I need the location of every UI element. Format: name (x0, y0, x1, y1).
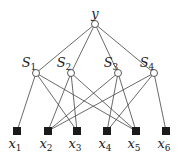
edge-S3-x2 (48, 73, 118, 131)
node-x4 (103, 127, 111, 135)
edge-S1-x3 (36, 73, 77, 131)
label-x4: x4 (98, 136, 111, 153)
label-S1: S1 (22, 55, 37, 72)
edge-S4-x6 (154, 73, 166, 131)
label-x2: x2 (39, 136, 52, 153)
node-x3 (73, 127, 81, 135)
edge-S2-x3 (71, 73, 77, 131)
label-x5: x5 (127, 136, 140, 153)
tree-diagram: yS1S2S3S4x1x2x3x4x5x6 (0, 0, 184, 161)
edge-S3-x4 (107, 73, 118, 131)
nodes (13, 21, 170, 136)
edges (17, 24, 166, 131)
edge-S4-x2 (48, 73, 154, 131)
node-x2 (44, 127, 52, 135)
node-x5 (132, 127, 140, 135)
edge-S2-x5 (71, 73, 136, 131)
node-x1 (13, 127, 21, 135)
label-S3: S3 (104, 55, 119, 72)
edge-y-S2 (71, 24, 95, 73)
edge-S4-x4 (107, 73, 154, 131)
node-y (92, 21, 99, 28)
label-x1: x1 (8, 136, 21, 153)
edge-S1-x1 (17, 73, 36, 131)
label-y: y (90, 6, 99, 21)
label-S4: S4 (140, 55, 155, 72)
label-x3: x3 (68, 136, 81, 153)
node-x6 (162, 127, 170, 135)
label-S2: S2 (57, 55, 72, 72)
label-x6: x6 (157, 136, 170, 153)
